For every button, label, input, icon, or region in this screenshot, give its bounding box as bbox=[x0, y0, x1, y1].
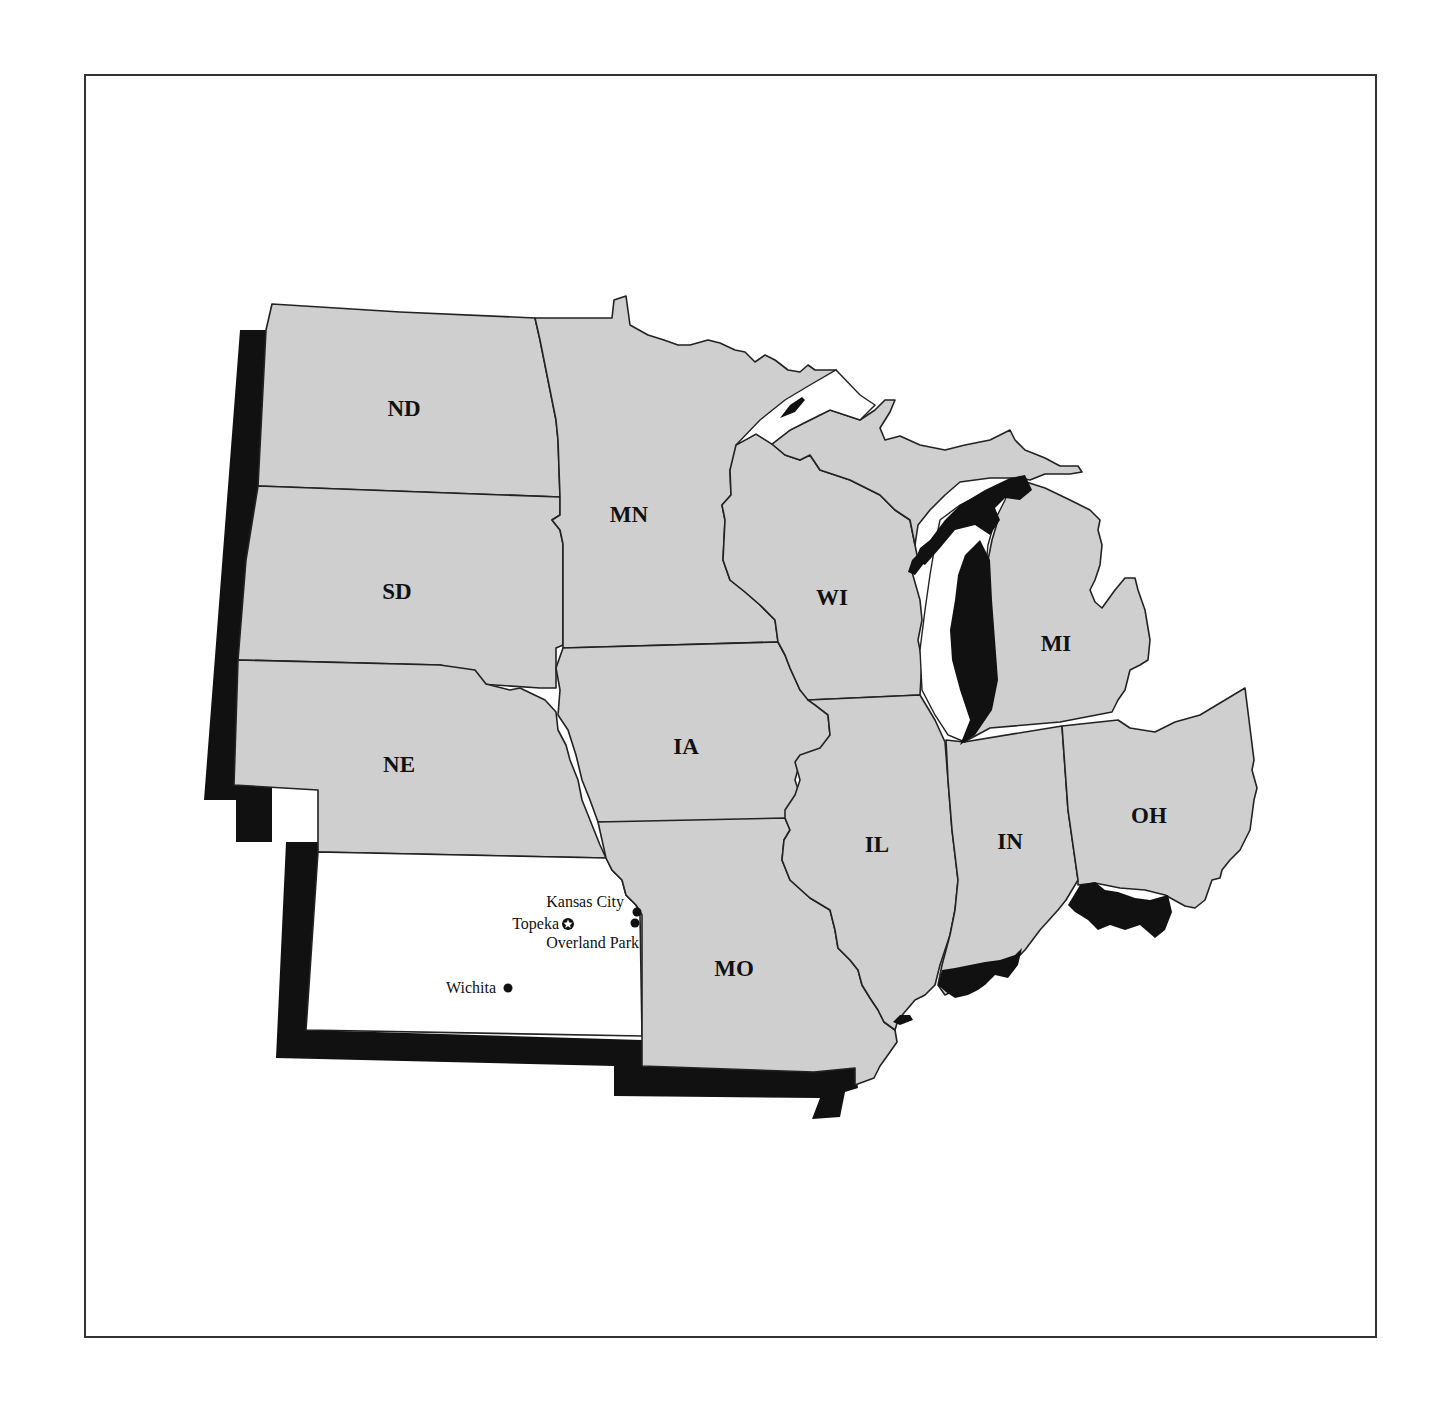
city-dot-icon bbox=[504, 984, 513, 993]
midwest-map: ND SD NE MN IA MO WI IL MI IN OH Kansas … bbox=[0, 0, 1446, 1410]
city-label-topeka: Topeka bbox=[512, 915, 559, 933]
label-nd: ND bbox=[387, 396, 420, 421]
label-ne: NE bbox=[383, 752, 415, 777]
label-mi: MI bbox=[1041, 631, 1072, 656]
state-ne[interactable] bbox=[234, 660, 606, 858]
city-label-kansas-city: Kansas City bbox=[546, 893, 624, 911]
city-dot-icon bbox=[631, 919, 640, 928]
label-mn: MN bbox=[610, 502, 649, 527]
label-in: IN bbox=[997, 829, 1023, 854]
label-wi: WI bbox=[816, 585, 848, 610]
state-oh[interactable] bbox=[1062, 688, 1257, 908]
city-dot-icon bbox=[633, 908, 642, 917]
city-label-wichita: Wichita bbox=[446, 979, 496, 996]
label-mo: MO bbox=[714, 956, 754, 981]
state-in[interactable] bbox=[938, 726, 1078, 995]
label-sd: SD bbox=[382, 579, 411, 604]
label-ia: IA bbox=[673, 734, 699, 759]
label-oh: OH bbox=[1131, 803, 1167, 828]
city-label-overland-park: Overland Park bbox=[546, 934, 639, 951]
label-il: IL bbox=[865, 832, 889, 857]
state-ia[interactable] bbox=[556, 642, 830, 822]
